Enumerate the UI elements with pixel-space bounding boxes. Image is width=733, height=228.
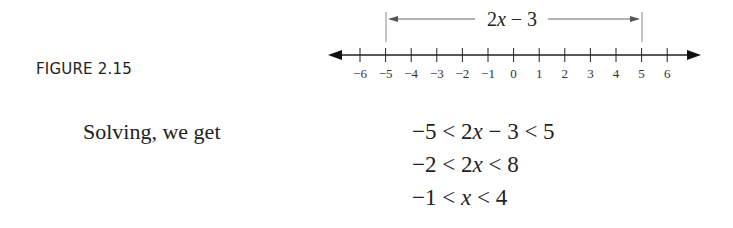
tick-label: 1 (536, 66, 543, 81)
tick-label: −5 (379, 66, 393, 81)
tick-label: −6 (353, 66, 367, 81)
tick-label: −4 (404, 66, 418, 81)
tick-label: −3 (430, 66, 444, 81)
number-line-figure: 2x − 3 −6−5−4−3−2−10123456 (0, 0, 733, 110)
equation-1: −5 < 2x − 3 < 5 (412, 119, 555, 145)
equation-2: −2 < 2x < 8 (412, 152, 519, 178)
equation-3: −1 < x < 4 (412, 185, 507, 211)
interval-label: 2x − 3 (487, 8, 537, 30)
tick-label: 3 (587, 66, 594, 81)
tick-label: −1 (481, 66, 495, 81)
tick-label: −2 (455, 66, 469, 81)
tick-label: 5 (638, 66, 645, 81)
tick-label: 4 (613, 66, 620, 81)
tick-label: 6 (664, 66, 671, 81)
tick-label: 2 (562, 66, 569, 81)
solving-text: Solving, we get (83, 119, 221, 145)
tick-label: 0 (510, 66, 517, 81)
